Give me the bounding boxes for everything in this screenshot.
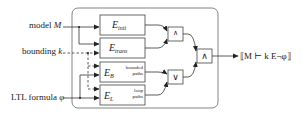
svg-text:paths: paths <box>132 71 143 76</box>
input-bound-label: bounding k <box>22 46 63 56</box>
svg-text:∧: ∧ <box>173 29 178 37</box>
svg-text:paths: paths <box>132 94 143 99</box>
wire-model-trans <box>79 27 99 44</box>
svg-text:∨: ∨ <box>172 72 179 82</box>
wire-bound-down <box>88 53 99 89</box>
block-e-bounded: EB bounded paths <box>100 62 145 82</box>
gate-and-final: ∧ <box>197 49 212 63</box>
input-formula-label: LTL formula φ <box>11 92 64 102</box>
wire-formula-b <box>80 75 99 98</box>
svg-text:bounded: bounded <box>126 65 144 70</box>
svg-text:loop: loop <box>134 88 143 93</box>
block-e-trans: Etrans <box>100 38 145 58</box>
gate-and-top: ∧ <box>168 27 183 41</box>
bmc-diagram: model M bounding k LTL formula φ Einit E… <box>0 0 307 115</box>
input-model-label: model M <box>29 20 62 30</box>
gate-or: ∨ <box>168 70 183 84</box>
block-e-loop: EL loop paths <box>100 85 145 105</box>
svg-text:∧: ∧ <box>201 51 208 61</box>
block-e-init: Einit <box>100 15 145 35</box>
output-label: ⟦M ⊢ k E¬φ⟧ <box>240 51 291 61</box>
